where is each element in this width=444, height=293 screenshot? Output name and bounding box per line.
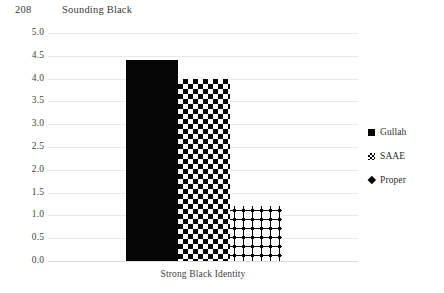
legend-label: Gullah <box>380 127 406 137</box>
chart-legend: GullahSAAEProper <box>368 120 444 192</box>
legend-item-proper[interactable]: Proper <box>368 168 444 192</box>
y-axis-tick-label: 0.5 <box>10 233 44 243</box>
legend-item-gullah[interactable]: Gullah <box>368 120 444 144</box>
legend-label: Proper <box>380 175 406 185</box>
x-axis-label: Strong Black Identity <box>48 269 358 279</box>
y-axis-tick-label: 1.0 <box>10 210 44 220</box>
y-axis-tick-label: 4.0 <box>10 74 44 84</box>
y-axis-tick-label: 2.0 <box>10 165 44 175</box>
y-axis-tick-label: 3.0 <box>10 119 44 129</box>
running-head-title: Sounding Black <box>62 4 132 15</box>
bar-gullah <box>126 60 178 261</box>
page-number: 208 <box>15 4 31 15</box>
page-header: 208 Sounding Black <box>0 0 444 26</box>
y-axis-tick-label: 2.5 <box>10 142 44 152</box>
checkered-square-icon <box>368 153 375 160</box>
bar-saae <box>178 79 230 261</box>
bar-chart: 5.04.54.03.53.02.52.01.51.00.50.0 Strong… <box>0 26 444 293</box>
y-axis-tick-label: 0.0 <box>10 256 44 266</box>
y-axis-tick-label: 1.5 <box>10 188 44 198</box>
solid-square-icon <box>368 129 375 136</box>
bar-proper <box>230 206 282 261</box>
y-axis-tick-label: 5.0 <box>10 28 44 38</box>
diamond-icon <box>368 177 375 184</box>
y-axis-tick-label: 3.5 <box>10 96 44 106</box>
legend-item-saae[interactable]: SAAE <box>368 144 444 168</box>
y-axis: 5.04.54.03.53.02.52.01.51.00.50.0 <box>4 33 44 261</box>
bar-group <box>48 33 358 261</box>
legend-label: SAAE <box>380 151 405 161</box>
gridline <box>48 261 358 262</box>
y-axis-tick-label: 4.5 <box>10 51 44 61</box>
